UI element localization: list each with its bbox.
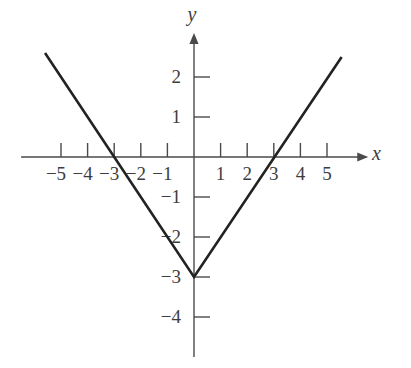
x-axis-label: x <box>371 142 381 164</box>
absolute-value-graph-figure: −5−4−3−2−11234521−1−2−3−4 x y <box>0 0 411 368</box>
x-tick-label: 1 <box>216 163 226 184</box>
y-tick-label: −1 <box>161 186 181 207</box>
x-tick-label: 4 <box>296 163 306 184</box>
x-tick-label: 5 <box>322 163 332 184</box>
y-tick-label: −3 <box>161 266 181 287</box>
tick-labels: −5−4−3−2−11234521−1−2−3−4 <box>46 66 332 327</box>
x-axis-arrowhead <box>357 152 368 161</box>
axes <box>21 33 368 357</box>
graph-canvas: −5−4−3−2−11234521−1−2−3−4 x y <box>0 0 411 368</box>
y-axis-arrowhead <box>189 33 198 44</box>
x-tick-label: −1 <box>152 163 172 184</box>
x-tick-label: 3 <box>269 163 279 184</box>
x-tick-label: −3 <box>99 163 119 184</box>
y-axis-label: y <box>186 3 197 26</box>
y-tick-label: −4 <box>161 306 182 327</box>
x-tick-label: 2 <box>242 163 252 184</box>
y-tick-label: 2 <box>172 66 182 87</box>
x-tick-label: −5 <box>46 163 66 184</box>
y-tick-label: 1 <box>172 106 182 127</box>
x-tick-label: −4 <box>72 163 93 184</box>
